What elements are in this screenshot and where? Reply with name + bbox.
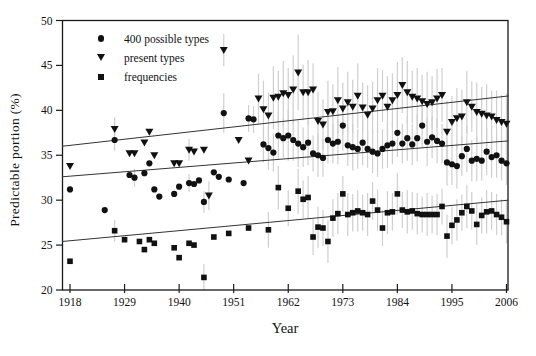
legend-item-frequencies: frequencies xyxy=(92,67,209,86)
data-point-circle xyxy=(67,186,73,192)
y-tick-label: 25 xyxy=(41,239,53,251)
data-point-square xyxy=(186,240,192,246)
data-point-circle xyxy=(389,140,395,146)
data-point-square xyxy=(419,212,425,218)
data-point-triangle xyxy=(319,122,327,129)
data-point-square xyxy=(320,225,326,231)
data-point-circle xyxy=(146,160,152,166)
data-point-circle xyxy=(285,132,291,138)
data-point-circle xyxy=(503,160,509,166)
data-point-circle xyxy=(379,146,385,152)
x-tick-label: 1929 xyxy=(113,296,136,308)
data-point-square xyxy=(360,210,366,216)
y-tick-label: 50 xyxy=(41,15,53,27)
data-point-circle xyxy=(171,191,177,197)
data-point-square xyxy=(295,188,301,194)
data-point-circle xyxy=(493,152,499,158)
data-point-square xyxy=(300,196,306,202)
data-point-square xyxy=(385,210,391,216)
data-point-square xyxy=(340,191,346,197)
data-point-circle xyxy=(295,140,301,146)
data-point-square xyxy=(226,231,232,237)
data-point-triangle xyxy=(339,105,347,112)
data-point-circle xyxy=(196,177,202,183)
data-point-triangle xyxy=(254,96,262,103)
data-point-circle xyxy=(325,137,331,143)
data-point-square xyxy=(310,234,316,240)
data-point-triangle xyxy=(503,121,511,128)
legend: 400 possible types present types frequen… xyxy=(92,29,209,86)
data-point-circle xyxy=(439,140,445,146)
data-point-square xyxy=(335,211,341,217)
data-point-triangle xyxy=(304,89,312,96)
data-point-square xyxy=(122,237,128,243)
x-tick-label: 2006 xyxy=(495,296,518,308)
data-point-circle xyxy=(360,140,366,146)
data-point-triangle xyxy=(175,160,183,167)
data-point-triangle xyxy=(364,112,372,119)
data-point-circle xyxy=(131,175,137,181)
data-point-square xyxy=(171,245,177,251)
legend-label: 400 possible types xyxy=(110,33,209,45)
legend-item-400-possible-types: 400 possible types xyxy=(92,29,209,48)
x-tick-label: 1973 xyxy=(331,296,354,308)
data-point-square xyxy=(285,205,291,211)
data-point-square xyxy=(434,212,440,218)
x-tick-label: 1962 xyxy=(277,296,300,308)
data-point-square xyxy=(137,239,143,245)
x-tick-label: 1951 xyxy=(222,296,245,308)
data-point-square xyxy=(191,242,197,248)
data-point-triangle xyxy=(140,140,148,147)
data-point-triangle xyxy=(220,47,228,54)
data-point-circle xyxy=(429,134,435,140)
y-tick-label: 35 xyxy=(41,149,53,161)
data-point-square xyxy=(449,223,455,229)
data-point-circle xyxy=(176,184,182,190)
data-point-circle xyxy=(112,137,118,143)
legend-label: present types xyxy=(110,52,184,64)
data-point-circle xyxy=(394,130,400,136)
data-point-triangle xyxy=(111,126,119,133)
data-point-square xyxy=(499,214,505,220)
data-point-triangle xyxy=(66,163,74,170)
y-tick-label: 20 xyxy=(41,284,53,296)
data-point-square xyxy=(400,207,406,213)
data-point-triangle xyxy=(259,106,267,113)
data-point-triangle xyxy=(443,129,451,136)
data-point-square xyxy=(305,195,311,201)
data-point-square xyxy=(152,240,158,246)
data-point-circle xyxy=(226,176,232,182)
x-tick-label: 1995 xyxy=(440,296,463,308)
data-point-triangle xyxy=(245,158,253,165)
data-point-triangle xyxy=(145,129,153,136)
data-point-square xyxy=(414,211,420,217)
data-point-square xyxy=(479,213,485,219)
scatter-plot-figure: 2025303540455019181929194019511962197319… xyxy=(0,0,536,356)
legend-label: frequencies xyxy=(110,71,177,83)
data-point-circle xyxy=(320,155,326,161)
data-point-circle xyxy=(300,144,306,150)
data-point-triangle xyxy=(294,70,302,77)
data-point-circle xyxy=(141,170,147,176)
data-point-square xyxy=(429,212,435,218)
data-point-square xyxy=(201,275,207,281)
data-point-square xyxy=(211,234,217,240)
data-point-square xyxy=(325,239,331,245)
data-point-circle xyxy=(464,146,470,152)
data-point-square xyxy=(370,198,376,204)
data-point-circle xyxy=(399,140,405,146)
legend-item-present-types: present types xyxy=(92,48,209,67)
data-point-triangle xyxy=(150,152,158,159)
x-axis-title: Year xyxy=(230,320,340,337)
data-point-circle xyxy=(454,163,460,169)
data-point-circle xyxy=(419,123,425,129)
data-point-triangle xyxy=(130,150,138,157)
data-point-circle xyxy=(374,150,380,156)
data-point-circle xyxy=(156,193,162,199)
data-point-square xyxy=(474,222,480,228)
data-point-triangle xyxy=(448,119,456,126)
data-point-square xyxy=(142,247,148,253)
data-point-square xyxy=(67,258,73,264)
data-point-square xyxy=(330,215,336,221)
data-point-square xyxy=(464,204,470,210)
